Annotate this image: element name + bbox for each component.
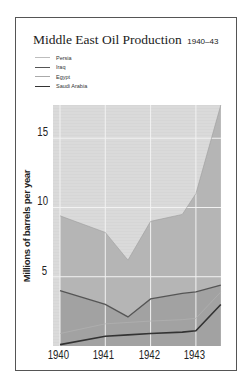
x-tick-label: 1940 <box>48 348 69 362</box>
y-tick-label: 15 <box>37 125 48 139</box>
y-tick-label: 5 <box>42 264 47 278</box>
y-tick-label: 10 <box>37 194 48 208</box>
x-tick-label: 1941 <box>93 348 114 362</box>
x-tick-label: 1942 <box>138 348 159 362</box>
x-tick-label: 1943 <box>184 348 205 362</box>
